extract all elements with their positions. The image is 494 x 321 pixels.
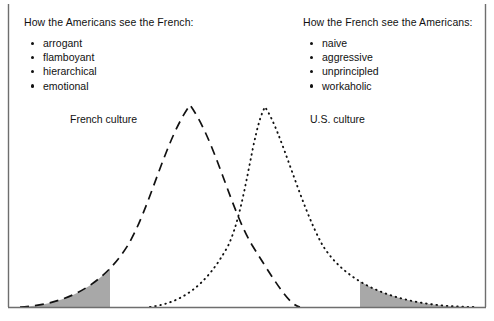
us-culture-curve: [150, 107, 477, 307]
us-tail-shaded-region: [150, 107, 477, 307]
french-tail-shaded-region: [20, 105, 300, 307]
french-culture-curve: [20, 105, 300, 307]
culture-comparison-figure: How the Americans see the French: arroga…: [0, 0, 494, 321]
bell-curve-plot: [0, 0, 494, 321]
